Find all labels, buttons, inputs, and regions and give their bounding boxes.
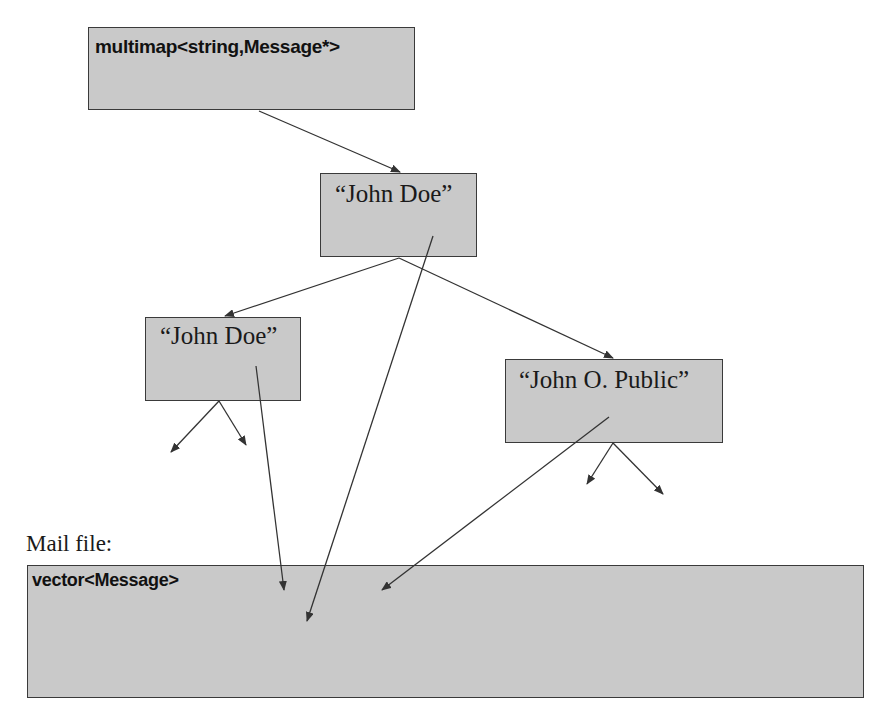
arrow-left-child-1 <box>171 401 219 452</box>
arrow-root-to-left <box>225 258 399 316</box>
arrow-root-to-vector <box>307 236 433 621</box>
arrow-left-child-2 <box>219 401 246 445</box>
arrow-multimap-to-root <box>259 111 400 172</box>
arrow-right-child-2 <box>613 443 663 494</box>
arrow-left-to-vector <box>256 366 284 590</box>
arrow-right-child-1 <box>587 443 613 484</box>
arrow-right-to-vector <box>382 417 609 590</box>
arrows-layer <box>0 0 888 718</box>
arrow-root-to-right <box>399 258 613 358</box>
